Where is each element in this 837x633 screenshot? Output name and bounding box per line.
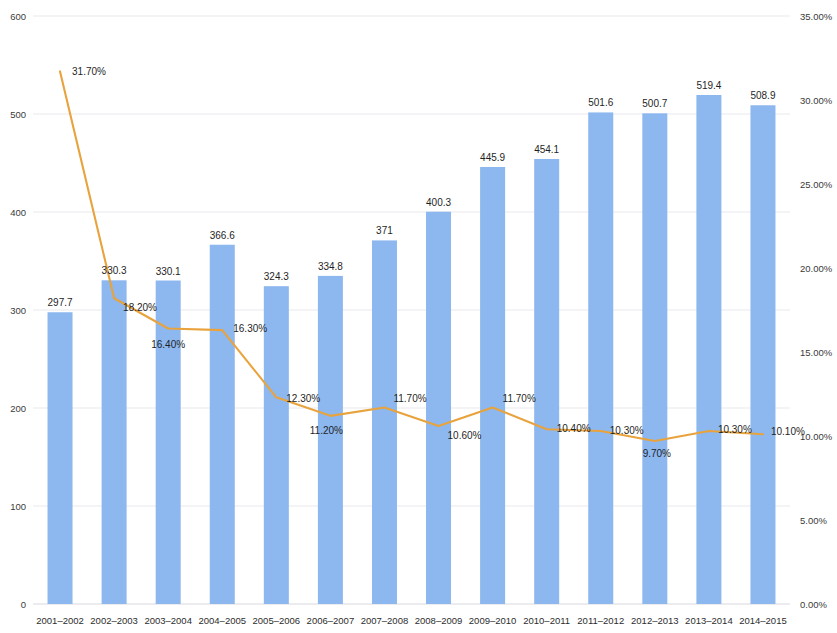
bar bbox=[102, 280, 127, 604]
bar bbox=[264, 286, 289, 604]
x-axis-tick-label: 2006–2007 bbox=[307, 615, 355, 626]
y-axis-tick-label: 400 bbox=[10, 207, 26, 218]
bar-value-label: 445.9 bbox=[480, 152, 505, 163]
bar-value-label: 508.9 bbox=[750, 90, 775, 101]
line-value-label: 11.70% bbox=[503, 393, 536, 404]
bar-value-label: 454.1 bbox=[534, 144, 559, 155]
bar-value-label: 366.6 bbox=[210, 230, 235, 241]
bar bbox=[642, 113, 667, 604]
y2-axis-tick-label: 15.00% bbox=[800, 347, 833, 358]
line-value-label: 18.20% bbox=[123, 302, 157, 313]
line-value-label: 9.70% bbox=[643, 448, 671, 459]
line-value-label: 11.20% bbox=[310, 425, 343, 436]
line-value-label: 12.30% bbox=[286, 393, 320, 404]
x-axis-tick-label: 2005–2006 bbox=[253, 615, 301, 626]
line-value-label: 10.60% bbox=[448, 430, 482, 441]
bar bbox=[480, 167, 505, 604]
bar bbox=[48, 312, 73, 604]
bar bbox=[372, 240, 397, 604]
bar-value-label: 330.3 bbox=[102, 265, 127, 276]
line-value-label: 10.40% bbox=[557, 423, 591, 434]
y2-axis-tick-label: 25.00% bbox=[800, 179, 833, 190]
x-axis-tick-label: 2003–2004 bbox=[144, 615, 192, 626]
y-axis-tick-label: 0 bbox=[21, 599, 26, 610]
bar-value-label: 324.3 bbox=[264, 271, 289, 282]
bar bbox=[318, 276, 343, 604]
bar bbox=[588, 112, 613, 604]
bar-value-label: 371 bbox=[376, 225, 393, 236]
x-axis-tick-label: 2008–2009 bbox=[415, 615, 463, 626]
y2-axis-tick-label: 20.00% bbox=[800, 263, 833, 274]
bar bbox=[534, 159, 559, 604]
bar bbox=[696, 95, 721, 604]
line-value-label: 10.30% bbox=[718, 424, 752, 435]
x-axis-tick-label: 2009–2010 bbox=[469, 615, 517, 626]
bar bbox=[750, 105, 775, 604]
bar-value-label: 519.4 bbox=[696, 80, 721, 91]
x-axis-tick-label: 2002–2003 bbox=[90, 615, 138, 626]
line-value-label: 16.30% bbox=[233, 323, 267, 334]
bar bbox=[210, 245, 235, 604]
x-axis-tick-label: 2014–2015 bbox=[739, 615, 787, 626]
y-axis-tick-label: 100 bbox=[10, 501, 26, 512]
y2-axis-tick-label: 10.00% bbox=[800, 431, 833, 442]
line-value-label: 10.30% bbox=[610, 425, 644, 436]
y-axis-tick-label: 500 bbox=[10, 109, 26, 120]
x-axis-tick-label: 2013–2014 bbox=[685, 615, 733, 626]
x-axis-tick-label: 2001–2002 bbox=[36, 615, 84, 626]
y2-axis-tick-label: 35.00% bbox=[800, 11, 833, 22]
bar-value-label: 297.7 bbox=[48, 297, 73, 308]
line-value-label: 16.40% bbox=[151, 339, 185, 350]
bar bbox=[426, 212, 451, 604]
y2-axis-tick-label: 5.00% bbox=[800, 515, 827, 526]
y-axis-tick-label: 200 bbox=[10, 403, 26, 414]
line-value-label: 11.70% bbox=[393, 393, 426, 404]
bar-value-label: 334.8 bbox=[318, 261, 343, 272]
y-axis-tick-label: 600 bbox=[10, 11, 26, 22]
bar-value-label: 400.3 bbox=[426, 197, 451, 208]
bar-value-label: 330.1 bbox=[156, 266, 181, 277]
bar-value-label: 500.7 bbox=[642, 98, 667, 109]
line-value-label: 31.70% bbox=[72, 66, 106, 77]
x-axis-tick-label: 2010–2011 bbox=[523, 615, 570, 626]
y-axis-tick-label: 300 bbox=[10, 305, 26, 316]
x-axis-tick-label: 2007–2008 bbox=[361, 615, 409, 626]
y2-axis-tick-label: 0.00% bbox=[800, 599, 827, 610]
x-axis-tick-label: 2012–2013 bbox=[631, 615, 679, 626]
y2-axis-tick-label: 30.00% bbox=[800, 95, 833, 106]
x-axis-tick-label: 2011–2012 bbox=[577, 615, 624, 626]
x-axis-tick-label: 2004–2005 bbox=[198, 615, 246, 626]
combo-chart: 297.7330.3330.1366.6324.3334.8371400.344… bbox=[0, 0, 837, 633]
chart-container: 297.7330.3330.1366.6324.3334.8371400.344… bbox=[0, 0, 837, 633]
bar-value-label: 501.6 bbox=[588, 97, 613, 108]
